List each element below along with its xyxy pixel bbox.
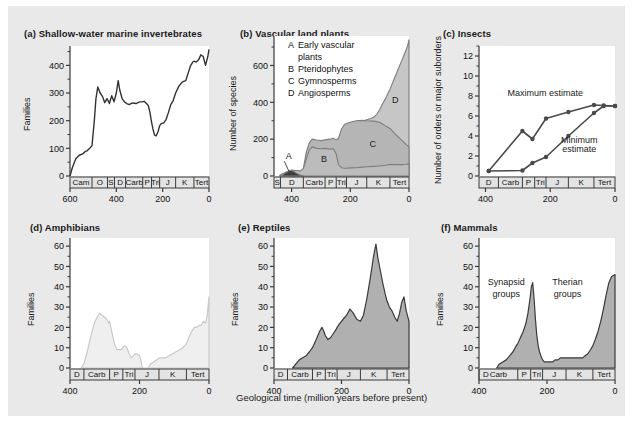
period-label: Carb xyxy=(88,370,106,379)
period-label: Carb xyxy=(502,178,520,187)
data-point xyxy=(592,111,596,115)
period-label: Carb xyxy=(125,178,143,187)
inline-label-b-3: D xyxy=(392,95,399,105)
period-label: S xyxy=(108,178,113,187)
period-label: Tert xyxy=(597,370,611,379)
period-label: J xyxy=(555,178,559,187)
period-label: K xyxy=(577,370,583,379)
annotation-f-2: Therian xyxy=(552,277,583,287)
period-label: Tri xyxy=(536,178,545,187)
x-tick-label: 400 xyxy=(109,194,124,204)
period-band-f: DCarbPTriJKTert xyxy=(479,369,615,380)
y-tick-label: 10 xyxy=(54,343,64,353)
period-label: Tri xyxy=(124,370,133,379)
period-label: J xyxy=(355,178,359,187)
period-band-d: DCarbPTriJKTert xyxy=(70,369,209,380)
period-label: Carb xyxy=(291,370,309,379)
period-label: J xyxy=(145,370,149,379)
x-tick-label: 0 xyxy=(612,386,617,396)
y-tick-label: 4 xyxy=(468,131,473,141)
data-point xyxy=(592,103,596,107)
y-tick-label: 0 xyxy=(468,363,473,373)
period-label: S xyxy=(275,178,280,187)
x-tick-label: 400 xyxy=(284,194,299,204)
period-label: P xyxy=(316,370,321,379)
period-label: Tert xyxy=(393,178,407,187)
y-tick-label: 10 xyxy=(463,71,473,81)
period-label: K xyxy=(170,370,176,379)
x-tick-label: 200 xyxy=(539,386,554,396)
y-tick-label: 40 xyxy=(258,282,268,292)
legend-label-2: Pteridophytes xyxy=(298,64,354,74)
y-tick-label: 60 xyxy=(463,241,473,251)
data-point xyxy=(613,104,617,108)
y-tick-label: 0 xyxy=(468,171,473,181)
inline-label-b-0: A xyxy=(286,151,292,161)
period-label: Tri xyxy=(151,178,160,187)
period-label: Carb xyxy=(306,178,324,187)
data-point xyxy=(530,161,534,165)
period-label: J xyxy=(552,370,556,379)
inline-label-b-1: B xyxy=(321,154,327,164)
y-tick-label: 20 xyxy=(258,323,268,333)
y-tick-label: 20 xyxy=(54,323,64,333)
y-tick-label: 12 xyxy=(463,51,473,61)
x-tick-label: 200 xyxy=(155,194,170,204)
period-label: Carb xyxy=(490,370,508,379)
y-tick-label: 60 xyxy=(258,241,268,251)
annotation-f-0: Synapsid xyxy=(488,277,525,287)
plot-e: 0102030405060DCarbPTriJKTert4002000 xyxy=(216,206,421,406)
x-tick-label: 400 xyxy=(478,194,493,204)
y-tick-label: 200 xyxy=(253,134,268,144)
annotation-f-3: groups xyxy=(554,289,582,299)
panel-b: (b) Vascular land plantsNumber of specie… xyxy=(216,6,421,206)
period-label: D xyxy=(117,178,123,187)
period-label: K xyxy=(371,370,377,379)
figure-container: (a) Shallow-water marine invertebratesFa… xyxy=(8,6,625,416)
x-tick-label: 0 xyxy=(612,194,617,204)
period-label: Tert xyxy=(191,370,205,379)
period-label: P xyxy=(522,370,527,379)
data-point xyxy=(530,137,534,141)
y-tick-label: 0 xyxy=(263,171,268,181)
legend-label-1: plants xyxy=(298,52,323,62)
legend-label-3: Gymnosperms xyxy=(298,76,357,86)
plot-f: SynapsidgroupsTheriangroups0102030405060… xyxy=(421,206,625,406)
panel-a: (a) Shallow-water marine invertebratesFa… xyxy=(8,6,216,206)
data-point xyxy=(601,104,605,108)
y-tick-label: 10 xyxy=(258,343,268,353)
period-label: D xyxy=(74,370,80,379)
data-point xyxy=(566,110,570,114)
period-label: P xyxy=(114,370,119,379)
panel-e: (e) ReptilesFamilies0102030405060DCarbPT… xyxy=(216,206,421,406)
period-label: Tri xyxy=(337,178,346,187)
y-tick-label: 8 xyxy=(468,91,473,101)
plot-c: Maximum estimateMinimumestimate024681012… xyxy=(421,6,625,206)
period-label: P xyxy=(144,178,149,187)
period-label: K xyxy=(578,178,584,187)
y-tick-label: 30 xyxy=(463,302,473,312)
y-tick-label: 300 xyxy=(49,88,64,98)
data-point xyxy=(544,116,548,120)
y-tick-label: 10 xyxy=(463,343,473,353)
annotation-c-2: estimate xyxy=(562,144,596,154)
panel-c: (c) InsectsNumber of orders or major sub… xyxy=(421,6,625,206)
x-tick-label: 0 xyxy=(406,194,411,204)
legend-label-4: Angiosperms xyxy=(298,88,351,98)
data-point xyxy=(544,155,548,159)
period-label: Cam xyxy=(73,178,90,187)
period-band-a: CamOSDCarbPTriJKTert xyxy=(70,177,209,188)
x-tick-label: 200 xyxy=(132,386,147,396)
period-label: J xyxy=(166,178,170,187)
data-point xyxy=(520,129,524,133)
period-band-e: DCarbPTriJKTert xyxy=(274,369,409,380)
inline-label-b-2: C xyxy=(369,139,376,149)
x-tick-label: 600 xyxy=(62,194,77,204)
period-label: P xyxy=(526,178,531,187)
y-tick-label: 40 xyxy=(463,282,473,292)
x-tick-label: 0 xyxy=(206,386,211,396)
x-tick-label: 0 xyxy=(206,194,211,204)
x-tick-label: 400 xyxy=(471,386,486,396)
period-band-c: DCarbPTriJKTert xyxy=(479,177,615,188)
data-point xyxy=(520,168,524,172)
